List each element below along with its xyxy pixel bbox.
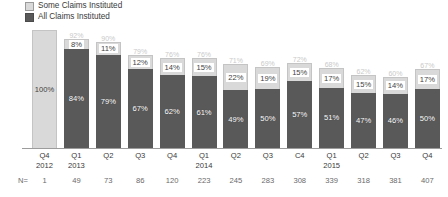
sample-size-value: 308 <box>287 176 312 185</box>
bar-column: 62%15%47% <box>351 30 376 148</box>
bar-segment-some-claims: 14% <box>160 58 185 75</box>
bar-total-label: 67% <box>415 62 440 69</box>
bar-total-label: 76% <box>160 51 185 58</box>
sample-size-value: 283 <box>255 176 280 185</box>
bar-segment-label: 79% <box>101 97 116 106</box>
legend-swatch-all-claims <box>25 13 34 22</box>
bar-total-label: 92% <box>64 32 89 39</box>
bar-column: 92%8%84% <box>64 30 89 148</box>
bar-segment-all-claims: 62% <box>160 75 185 148</box>
x-axis-tick-quarter: Q1 <box>327 151 337 160</box>
bar-column: 69%19%50% <box>255 30 280 148</box>
bar-segment-all-claims: 84% <box>64 49 89 148</box>
bar-segment-label: 100% <box>35 85 54 94</box>
bar-segment-some-claims: 22% <box>223 64 248 90</box>
sample-size-value: 49 <box>64 176 89 185</box>
x-axis-tick-quarter: Q3 <box>135 151 145 160</box>
bar-total-label: 72% <box>287 56 312 63</box>
x-axis-tick-quarter: Q3 <box>263 151 273 160</box>
bar-segment-label: 14% <box>163 63 182 72</box>
sample-size-value: 120 <box>160 176 185 185</box>
x-axis-tick-quarter: Q1 <box>71 151 81 160</box>
bar-segment-label: 15% <box>354 80 373 89</box>
x-axis-tick-quarter: Q3 <box>390 151 400 160</box>
bar-segment-some-claims: 14% <box>383 77 408 94</box>
sample-size-value: 73 <box>96 176 121 185</box>
sample-size-value: 407 <box>415 176 440 185</box>
bar-segment-all-claims: 57% <box>287 81 312 148</box>
bar-column: 67%17%50% <box>415 30 440 148</box>
sample-size-row: N= 1497386120223245283308339318381407 <box>0 176 448 188</box>
sample-size-value: 1 <box>32 176 57 185</box>
bar-column: 79%12%67% <box>128 30 153 148</box>
bar-segment-some-claims: 17% <box>319 68 344 88</box>
bar-segment-label: 17% <box>418 75 437 84</box>
bar-segment-label: 15% <box>194 63 213 72</box>
sample-size-label: N= <box>18 176 28 185</box>
legend-item-all-claims: All Claims Instituted <box>25 12 122 22</box>
bar-column: 68%17%51% <box>319 30 344 148</box>
bar-segment-label: 47% <box>356 116 371 125</box>
x-axis-line <box>22 148 442 149</box>
bar-segment-label: 61% <box>196 108 211 117</box>
bar-total-label: 79% <box>128 48 153 55</box>
plot-area: 100%92%8%84%90%11%79%79%12%67%76%14%62%7… <box>32 30 440 148</box>
bar-segment-all-claims: 61% <box>192 76 217 148</box>
legend-label-all-claims: All Claims Instituted <box>38 12 110 22</box>
sample-size-value: 339 <box>319 176 344 185</box>
bar-segment-label: 22% <box>226 73 245 82</box>
bar-segment-label: 12% <box>131 58 150 67</box>
sample-size-value: 223 <box>192 176 217 185</box>
x-axis-tick: Q4 <box>160 151 185 170</box>
x-axis-tick: Q42012 <box>32 151 57 170</box>
bar-total-label: 69% <box>255 60 280 67</box>
bar-segment-all-claims: 49% <box>223 90 248 148</box>
bar-segment-label: 84% <box>69 94 84 103</box>
x-axis-tick-quarter: Q4 <box>167 151 177 160</box>
bar-total-label: 71% <box>223 57 248 64</box>
x-axis-tick-quarter: Q2 <box>103 151 113 160</box>
sample-size-value: 381 <box>383 176 408 185</box>
bar-segment-all-claims: 46% <box>383 94 408 148</box>
x-axis-tick: Q3 <box>383 151 408 170</box>
bar-segment-some-claims: 15% <box>287 63 312 81</box>
legend-item-some-claims: Some Claims Instituted <box>25 1 122 11</box>
x-axis-tick-quarter: Q4 <box>422 151 432 160</box>
stacked-bar-chart: Some Claims Instituted All Claims Instit… <box>0 0 448 197</box>
x-axis-tick-year: 2012 <box>32 161 57 171</box>
bar-segment-label: 67% <box>133 104 148 113</box>
bar-total-label: 62% <box>351 68 376 75</box>
bar-segment-label: 17% <box>322 74 341 83</box>
bar-segment-all-claims: 50% <box>415 89 440 148</box>
x-axis-labels: Q42012Q12013Q2Q3Q4Q12014Q2Q3C4Q12015Q2Q3… <box>32 151 440 170</box>
bar-segment-label: 50% <box>260 114 275 123</box>
bar-segment-label: 62% <box>165 107 180 116</box>
bar-column: 71%22%49% <box>223 30 248 148</box>
bar-column: 60%14%46% <box>383 30 408 148</box>
bar-segment-all-claims: 100% <box>32 30 57 148</box>
bar-column: 90%11%79% <box>96 30 121 148</box>
bar-segment-all-claims: 79% <box>96 55 121 148</box>
bar-segment-some-claims: 15% <box>192 58 217 76</box>
x-axis-tick-quarter: Q2 <box>231 151 241 160</box>
legend-label-some-claims: Some Claims Instituted <box>38 1 122 11</box>
bar-segment-all-claims: 47% <box>351 93 376 148</box>
bar-segment-label: 50% <box>420 114 435 123</box>
x-axis-tick: C4 <box>287 151 312 170</box>
x-axis-tick: Q2 <box>351 151 376 170</box>
bar-total-label: 60% <box>383 70 408 77</box>
x-axis-tick-quarter: Q2 <box>358 151 368 160</box>
bar-segment-label: 11% <box>99 44 118 53</box>
x-axis-tick: Q2 <box>223 151 248 170</box>
x-axis-tick: Q2 <box>96 151 121 170</box>
bar-segment-all-claims: 50% <box>255 89 280 148</box>
bar-column: 76%15%61% <box>192 30 217 148</box>
bar-segment-label: 14% <box>386 81 405 90</box>
bar-column: 72%15%57% <box>287 30 312 148</box>
bar-segment-label: 8% <box>69 40 84 49</box>
bar-segment-some-claims: 17% <box>415 69 440 89</box>
x-axis-tick-year: 2013 <box>64 161 89 171</box>
legend-swatch-some-claims <box>25 2 34 11</box>
x-axis-tick-year: 2014 <box>192 161 217 171</box>
bar-segment-all-claims: 51% <box>319 88 344 148</box>
